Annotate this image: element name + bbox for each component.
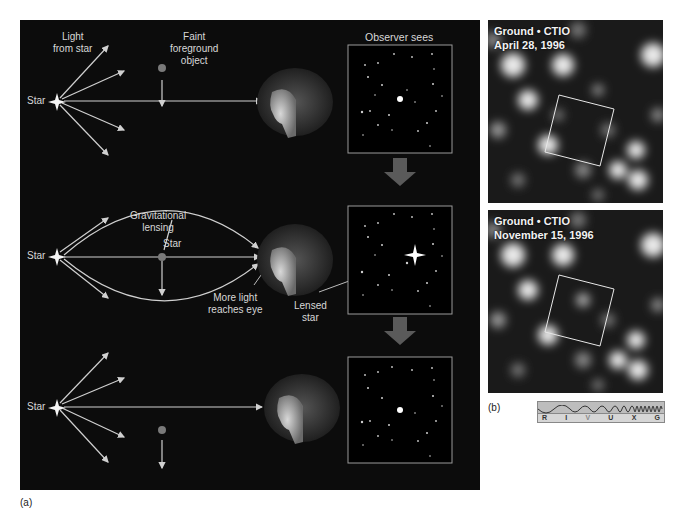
ctio-image-april: Ground • CTIO April 28, 1996 [488, 20, 663, 203]
label-line: from star [53, 43, 92, 55]
row3-foreground-object-icon [158, 426, 166, 434]
transition-arrow-1-icon [384, 158, 416, 186]
label-line: lensing [130, 222, 186, 234]
label-line: More light [208, 292, 262, 304]
panel-a-caption: (a) [20, 497, 32, 508]
band-g: G [655, 413, 660, 422]
panel-b-caption: (b) [488, 402, 500, 413]
spectrum-band-indicator: R I V U X G [537, 401, 665, 423]
label-line: reaches eye [208, 304, 262, 316]
row2-lens-star-icon [158, 253, 166, 261]
spectrum-band-labels: R I V U X G [538, 413, 664, 422]
observer-view-inset-2 [348, 206, 452, 314]
label-line: Gravitational [130, 210, 186, 222]
observatory-label: Ground • CTIO [494, 214, 594, 228]
row1-foreground-object-icon [158, 64, 166, 72]
label-line: Light [53, 31, 92, 43]
lensing-diagram-panel: Light from star Star Faint foreground ob… [20, 20, 480, 490]
label-line: object [170, 55, 218, 67]
photo-label-november: Ground • CTIO November 15, 1996 [494, 214, 594, 242]
gravitational-lensing-label: Gravitational lensing [130, 210, 186, 234]
band-r: R [542, 413, 547, 422]
date-label: April 28, 1996 [494, 38, 570, 52]
observer-face-icon [257, 68, 333, 138]
band-v: V [585, 413, 590, 422]
photo-label-april: Ground • CTIO April 28, 1996 [494, 24, 570, 52]
label-line: Faint [170, 31, 218, 43]
more-light-label: More light reaches eye [208, 292, 262, 316]
observer-sees-label: Observer sees [365, 31, 433, 43]
lens-star-label: Star [163, 238, 181, 250]
foreground-object-label: Faint foreground object [170, 31, 218, 67]
observer-face-icon [257, 224, 333, 296]
observer-face-icon [264, 374, 340, 444]
observatory-label: Ground • CTIO [494, 24, 570, 38]
row1-star-label: Star [27, 95, 45, 107]
band-u: U [608, 413, 613, 422]
label-line: Lensed [294, 300, 327, 312]
label-line: star [294, 312, 327, 324]
row3-star-label: Star [27, 401, 45, 413]
date-label: November 15, 1996 [494, 228, 594, 242]
ctio-image-november: Ground • CTIO November 15, 1996 [488, 210, 663, 393]
band-x: X [632, 413, 637, 422]
lensed-star-label: Lensed star [294, 300, 327, 324]
light-from-star-label: Light from star [53, 31, 92, 55]
label-line: foreground [170, 43, 218, 55]
transition-arrow-2-icon [384, 317, 416, 345]
band-i: I [565, 413, 567, 422]
row2-star-label: Star [27, 250, 45, 262]
lensing-diagram-graphics [20, 20, 480, 490]
